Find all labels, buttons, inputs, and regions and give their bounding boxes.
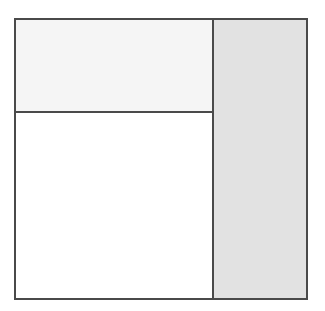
content-region: Content	[16, 113, 212, 298]
outer-frame: Header Content Sidebar	[14, 18, 308, 300]
left-column: Header Content	[16, 20, 214, 298]
sidebar-region: Sidebar	[214, 20, 306, 298]
diagram-canvas: Header Content Sidebar	[0, 0, 325, 311]
header-region: Header	[16, 20, 212, 113]
